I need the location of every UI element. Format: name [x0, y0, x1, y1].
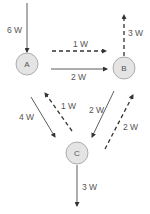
- edge-b-to-c: 2 W: [89, 91, 114, 137]
- node-label: A: [24, 60, 30, 69]
- power-flow-diagram: 6 W 1 W 2 W 3 W 4 W 1 W 2 W 2 W 3 W: [0, 0, 150, 214]
- node-c: C: [66, 142, 88, 164]
- edge-c-to-b: 2 W: [105, 95, 138, 149]
- edge-label: 6 W: [7, 25, 22, 35]
- edge-b-to-external: 3 W: [124, 15, 143, 56]
- node-label: B: [121, 64, 126, 73]
- edge-label: 2 W: [123, 122, 138, 132]
- edge-a-to-c: 4 W: [19, 97, 55, 137]
- edge-label: 1 W: [73, 39, 88, 49]
- edge-a-to-b-dashed: 1 W: [52, 39, 106, 51]
- edge-a-to-b-solid: 2 W: [51, 69, 107, 82]
- node-b: B: [113, 57, 135, 79]
- edge-label: 2 W: [71, 72, 86, 82]
- edge-label: 2 W: [89, 105, 104, 115]
- edge-label: 1 W: [61, 101, 76, 111]
- edge-c-to-a: 1 W: [45, 93, 76, 131]
- edge-label: 4 W: [19, 112, 34, 122]
- edge-external-to-a: 6 W: [7, 3, 27, 52]
- node-label: C: [74, 149, 80, 158]
- edge-c-to-external: 3 W: [77, 165, 97, 206]
- edge-label: 3 W: [82, 182, 97, 192]
- node-a: A: [16, 53, 38, 75]
- edge-label: 3 W: [128, 28, 143, 38]
